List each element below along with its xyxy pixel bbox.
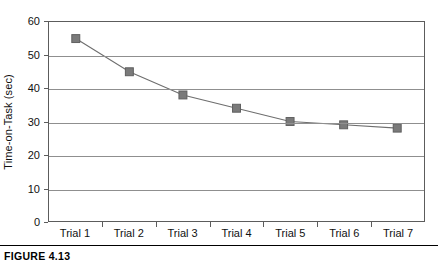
y-axis-tick-label: 50 bbox=[28, 49, 40, 60]
x-axis-tick-label: Trial 7 bbox=[383, 227, 413, 240]
gridline bbox=[49, 190, 424, 191]
x-axis-tick-label: Trial 3 bbox=[168, 227, 198, 240]
x-axis-tick-labels: Trial 1Trial 2Trial 3Trial 4Trial 5Trial… bbox=[48, 227, 425, 243]
data-point-marker bbox=[179, 91, 187, 99]
x-axis-tick-label: Trial 5 bbox=[275, 227, 305, 240]
y-axis-tick-label: 30 bbox=[28, 116, 40, 127]
y-axis-tick-label: 60 bbox=[28, 16, 40, 27]
gridline bbox=[49, 156, 424, 157]
gridline bbox=[49, 56, 424, 57]
data-point-marker bbox=[286, 118, 294, 126]
y-axis-tick-label: 40 bbox=[28, 83, 40, 94]
plot-area bbox=[48, 21, 425, 222]
x-axis-tick-label: Trial 1 bbox=[60, 227, 90, 240]
caption-divider bbox=[0, 245, 438, 246]
y-axis-tick-label: 10 bbox=[28, 183, 40, 194]
data-point-marker bbox=[72, 35, 80, 43]
x-axis-tick-label: Trial 6 bbox=[329, 227, 359, 240]
line-chart: Time-on-Task (sec) 0102030405060 Trial 1… bbox=[0, 0, 438, 240]
series-time-on-task bbox=[49, 22, 424, 221]
series-line bbox=[76, 39, 397, 129]
x-axis-tick-label: Trial 2 bbox=[114, 227, 144, 240]
figure-caption: FIGURE 4.13 bbox=[4, 250, 70, 262]
data-point-marker bbox=[393, 124, 401, 132]
y-axis-title: Time-on-Task (sec) bbox=[0, 20, 16, 223]
x-axis-tick-label: Trial 4 bbox=[221, 227, 251, 240]
gridline bbox=[49, 89, 424, 90]
y-axis-title-text: Time-on-Task (sec) bbox=[2, 74, 14, 170]
y-axis-tick-labels: 0102030405060 bbox=[17, 0, 45, 240]
data-point-marker bbox=[233, 104, 241, 112]
data-point-marker bbox=[125, 68, 133, 76]
figure-4-13: Time-on-Task (sec) 0102030405060 Trial 1… bbox=[0, 0, 438, 269]
y-axis-tick-label: 0 bbox=[34, 217, 40, 228]
gridline bbox=[49, 123, 424, 124]
y-axis-tick-label: 20 bbox=[28, 150, 40, 161]
